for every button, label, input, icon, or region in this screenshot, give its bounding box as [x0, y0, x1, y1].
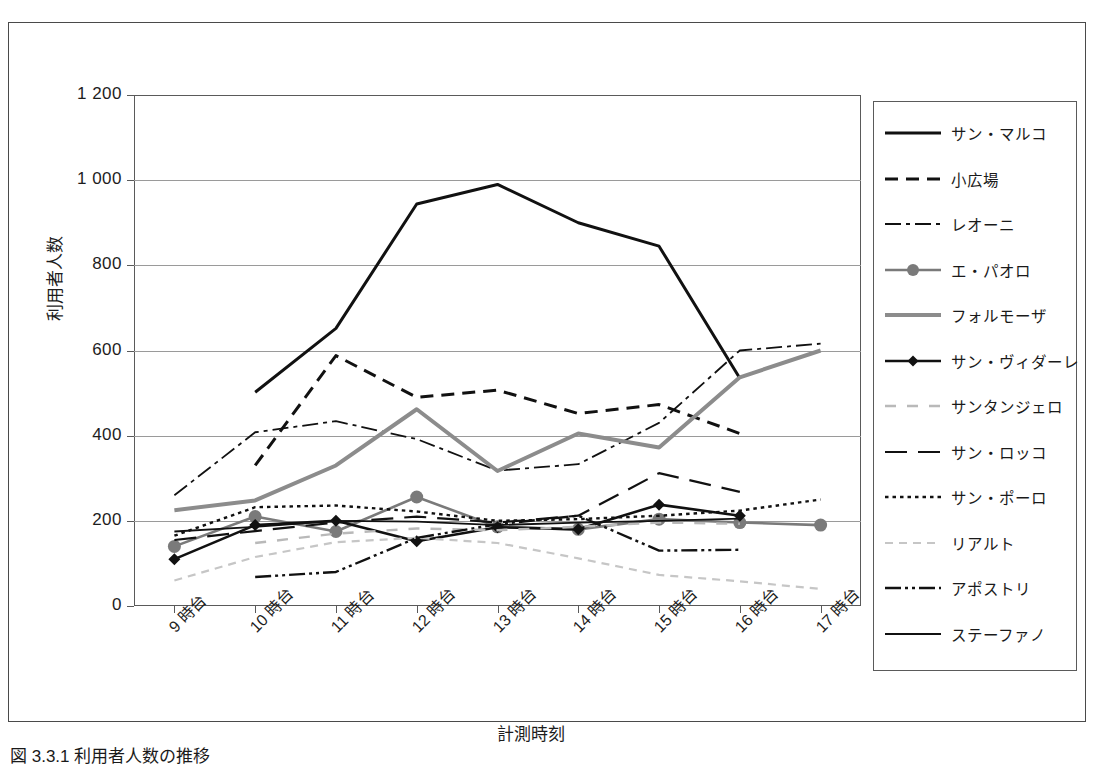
series-line — [174, 538, 820, 589]
y-tick-label: 600 — [42, 340, 122, 360]
y-tick-label: 1 200 — [42, 84, 122, 104]
y-tick-mark — [127, 436, 134, 437]
legend-item[interactable]: サン・ヴィダーレ — [884, 346, 1074, 376]
legend-label: エ・パオロ — [951, 259, 1031, 281]
legend-label: サン・ロッコ — [951, 441, 1047, 463]
y-tick-label: 800 — [42, 254, 122, 274]
series-line — [255, 356, 740, 466]
y-tick-mark — [127, 180, 134, 181]
legend-key-icon — [884, 627, 942, 641]
series-marker — [168, 553, 180, 565]
legend-label: サン・マルコ — [951, 122, 1047, 144]
series-line — [174, 351, 820, 511]
legend-item[interactable]: ステーファノ — [884, 619, 1074, 649]
y-tick-mark — [127, 521, 134, 522]
legend-label: ステーファノ — [951, 623, 1046, 645]
legend-key-icon — [884, 172, 942, 186]
legend-item[interactable]: エ・パオロ — [884, 255, 1074, 285]
series-marker — [653, 499, 665, 511]
legend-label: レオーニ — [951, 213, 1015, 235]
legend-item[interactable]: サン・ロッコ — [884, 437, 1074, 467]
legend-key-icon — [884, 445, 942, 459]
legend-key-icon — [884, 354, 942, 368]
legend-item[interactable]: サン・マルコ — [884, 118, 1074, 148]
legend-item[interactable]: サン・ポーロ — [884, 482, 1074, 512]
plot-area — [134, 95, 861, 606]
series-4 — [174, 351, 820, 511]
legend-key-icon — [884, 263, 942, 277]
x-axis-title: 計測時刻 — [497, 720, 565, 745]
figure-caption: 図 3.3.1 利用者人数の推移 — [10, 742, 210, 767]
series-marker — [329, 525, 342, 538]
legend-item[interactable]: リアルト — [884, 528, 1074, 558]
series-line — [255, 184, 740, 392]
y-tick-mark — [127, 351, 134, 352]
legend-item[interactable]: アポストリ — [884, 573, 1074, 603]
series-1 — [255, 356, 740, 466]
legend-label: サンタンジェロ — [951, 395, 1063, 417]
legend-key-icon — [884, 399, 942, 413]
figure-root: 利用者人数 02004006008001 0001 200 9 時台10 時台1… — [0, 0, 1095, 768]
legend-key-icon — [884, 126, 942, 140]
chart-legend: サン・マルコ小広場レオーニエ・パオロフォルモーザサン・ヴィダーレサンタンジェロサ… — [873, 101, 1077, 671]
series-9 — [174, 538, 820, 589]
series-marker — [410, 490, 423, 503]
legend-label: サン・ポーロ — [951, 486, 1047, 508]
y-tick-mark — [127, 95, 134, 96]
y-tick-mark — [127, 606, 134, 607]
legend-item[interactable]: フォルモーザ — [884, 300, 1074, 330]
legend-item[interactable]: レオーニ — [884, 209, 1074, 239]
figure-frame: 利用者人数 02004006008001 0001 200 9 時台10 時台1… — [8, 22, 1086, 722]
series-0 — [255, 184, 740, 392]
series-layer — [134, 95, 861, 606]
legend-key-icon — [884, 581, 942, 595]
y-tick-label: 200 — [42, 510, 122, 530]
legend-key-icon — [884, 217, 942, 231]
legend-label: フォルモーザ — [951, 304, 1047, 326]
y-tick-mark — [127, 265, 134, 266]
series-marker — [814, 519, 827, 532]
legend-label: サン・ヴィダーレ — [951, 350, 1079, 372]
legend-key-icon — [884, 490, 942, 504]
legend-key-icon — [884, 536, 942, 550]
legend-key-icon — [884, 308, 942, 322]
legend-label: アポストリ — [951, 577, 1031, 599]
y-tick-label: 400 — [42, 425, 122, 445]
series-marker — [168, 540, 181, 553]
legend-label: 小広場 — [951, 168, 999, 190]
y-axis-title: 利用者人数 — [41, 236, 66, 321]
legend-label: リアルト — [951, 532, 1015, 554]
y-tick-label: 1 000 — [42, 169, 122, 189]
legend-item[interactable]: サンタンジェロ — [884, 391, 1074, 421]
y-tick-label: 0 — [42, 595, 122, 615]
legend-item[interactable]: 小広場 — [884, 164, 1074, 194]
